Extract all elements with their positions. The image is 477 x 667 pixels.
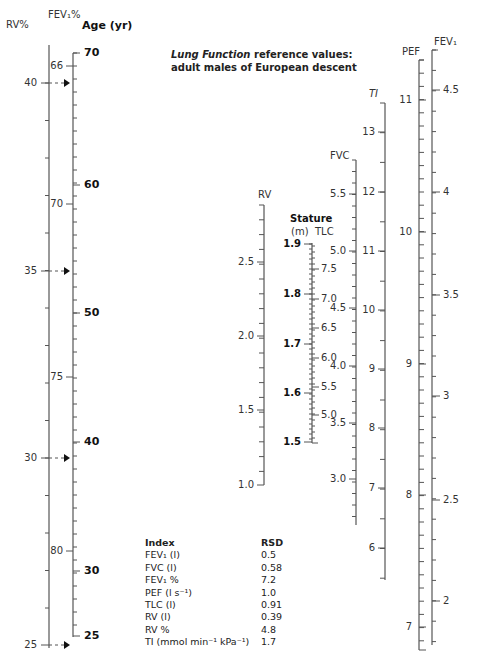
tick-label: 7 (406, 621, 412, 632)
table-row: TLC (l)0.91 (145, 599, 301, 611)
rsd-cell: 0.5 (261, 549, 301, 561)
index-cell: PEF (l s⁻¹) (145, 587, 261, 599)
tick-label: 3 (443, 390, 449, 401)
tick-label: 1.7 (283, 338, 301, 349)
tick-label: 12 (362, 186, 375, 197)
index-cell: FVC (l) (145, 562, 261, 574)
tick-label: 40 (24, 77, 37, 88)
tick-label: 10 (399, 226, 412, 237)
rsd-cell: 7.2 (261, 574, 301, 586)
tick-label: 1.8 (283, 288, 301, 299)
fev1-label: FEV₁ (434, 36, 457, 47)
table-row: FEV₁ (l)0.5 (145, 549, 301, 561)
tick-label: 2.5 (443, 494, 459, 505)
arrow-icon (64, 641, 70, 649)
tick-label: 13 (362, 126, 375, 137)
tick-label: 25 (24, 639, 37, 650)
tick-label: 5.5 (330, 188, 346, 199)
index-header: Index (145, 537, 261, 549)
tick-label: 3.5 (443, 289, 459, 300)
rv-label: RV (258, 189, 271, 200)
tick-label: 1.9 (283, 238, 301, 249)
tick-label: 4.0 (330, 360, 346, 371)
arrow-icon (64, 267, 70, 275)
tick-label: 3.5 (330, 417, 346, 428)
ti-label: TI (369, 88, 378, 99)
diagram-title: Lung Function reference values: adult ma… (171, 48, 357, 74)
age-label: Age (yr) (82, 19, 132, 32)
rsd-cell: 1.0 (261, 587, 301, 599)
tick-label: 35 (24, 265, 37, 276)
table-row: TI (mmol min⁻¹ kPa⁻¹)1.7 (145, 636, 301, 648)
tick-label: 30 (24, 452, 37, 463)
index-cell: RV % (145, 624, 261, 636)
tick-label: 1.6 (283, 387, 301, 398)
tick-label: 50 (84, 306, 100, 319)
tick-label: 3.0 (330, 473, 346, 484)
rsd-cell: 1.7 (261, 636, 301, 648)
tick-label: 2.5 (238, 256, 254, 267)
tick-label: 11 (362, 245, 375, 256)
title-line2: adult males of European descent (171, 61, 357, 74)
tick-label: 6.5 (321, 322, 337, 333)
tick-label: 2.0 (238, 330, 254, 341)
tick-label: 5.0 (330, 245, 346, 256)
tick-label: 9 (369, 363, 375, 374)
title-italic: Lung Function (171, 49, 251, 60)
tick-label: 7 (369, 482, 375, 493)
tick-label: 75 (50, 371, 63, 382)
tick-label: 4 (443, 186, 449, 197)
tick-label: 10 (362, 304, 375, 315)
rsd-table-header: Index RSD (145, 537, 301, 549)
fev1-pct-label: FEV₁% (48, 9, 80, 20)
tick-label: 2 (443, 595, 449, 606)
stature-unit-label: (m) (291, 226, 309, 237)
tick-label: 1.5 (238, 404, 254, 415)
tick-label: 80 (50, 545, 63, 556)
index-cell: RV (l) (145, 611, 261, 623)
index-cell: FEV₁ (l) (145, 549, 261, 561)
tick-label: 6 (369, 542, 375, 553)
rsd-cell: 0.91 (261, 599, 301, 611)
tick-label: 25 (84, 629, 99, 642)
tlc-label: TLC (315, 226, 334, 237)
tick-label: 8 (406, 489, 412, 500)
tick-label: 40 (84, 435, 100, 448)
tick-label: 8 (369, 422, 375, 433)
tick-label: 4.5 (443, 84, 459, 95)
table-row: FEV₁ %7.2 (145, 574, 301, 586)
title-line1: reference values: (251, 49, 353, 60)
arrow-icon (64, 454, 70, 462)
index-cell: TLC (l) (145, 599, 261, 611)
tick-label: 30 (84, 564, 100, 577)
rsd-header: RSD (261, 537, 301, 549)
arrow-icon (64, 79, 70, 87)
tick-label: 70 (50, 198, 63, 209)
tick-label: 11 (399, 94, 412, 105)
tick-label: 9 (406, 358, 412, 369)
tick-label: 5.5 (321, 381, 337, 392)
index-cell: FEV₁ % (145, 574, 261, 586)
tick-label: 4.5 (330, 302, 346, 313)
rv-pct-label: RV% (6, 19, 29, 30)
table-row: FVC (l)0.58 (145, 562, 301, 574)
tick-label: 1.0 (238, 479, 254, 490)
table-row: RV (l)0.39 (145, 611, 301, 623)
table-row: RV %4.8 (145, 624, 301, 636)
table-row: PEF (l s⁻¹)1.0 (145, 587, 301, 599)
tick-label: 1.5 (283, 436, 301, 447)
rsd-cell: 0.39 (261, 611, 301, 623)
tick-label: 7.5 (321, 263, 337, 274)
rsd-table: Index RSD FEV₁ (l)0.5 FVC (l)0.58 FEV₁ %… (145, 537, 301, 649)
index-cell: TI (mmol min⁻¹ kPa⁻¹) (145, 636, 261, 648)
rsd-cell: 0.58 (261, 562, 301, 574)
rsd-cell: 4.8 (261, 624, 301, 636)
tick-label: 60 (84, 178, 100, 191)
tick-label: 66 (50, 60, 63, 71)
pef-label: PEF (402, 46, 420, 57)
tick-label: 70 (84, 46, 100, 59)
fvc-label: FVC (330, 150, 350, 161)
stature-label: Stature (290, 213, 332, 224)
